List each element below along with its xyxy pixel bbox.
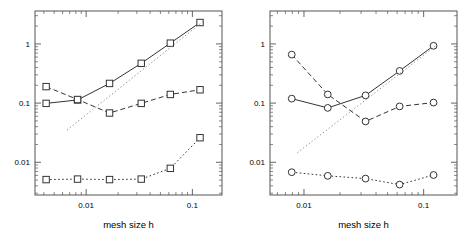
chart-panel-left: 0.010.110.10.01mesh size h [0, 0, 234, 234]
data-point-marker [430, 99, 437, 106]
data-point-marker [74, 176, 80, 182]
data-point-marker [396, 103, 403, 110]
x-axis-title: mesh size h [103, 219, 154, 230]
data-point-marker [362, 118, 369, 125]
data-point-marker [197, 87, 203, 93]
data-point-marker [74, 96, 80, 102]
data-point-marker [396, 68, 403, 75]
data-point-marker [138, 176, 144, 182]
data-series-line [46, 23, 200, 104]
data-point-marker [138, 100, 144, 106]
x-tick-label: 0.01 [296, 201, 312, 210]
data-series-line [46, 138, 200, 180]
data-point-marker [197, 135, 203, 141]
data-series-line [292, 46, 434, 108]
data-point-marker [430, 172, 437, 179]
data-point-marker [106, 80, 112, 86]
data-point-marker [288, 95, 295, 102]
y-tick-label: 1 [26, 40, 31, 49]
data-series-line [292, 55, 434, 122]
data-point-marker [167, 165, 173, 171]
data-point-marker [43, 83, 49, 89]
data-point-marker [324, 91, 331, 98]
data-point-marker [324, 172, 331, 179]
chart-svg: 0.010.110.10.01mesh size h [0, 0, 234, 234]
data-point-marker [106, 176, 112, 182]
data-point-marker [43, 100, 49, 106]
y-tick-label: 0.1 [254, 99, 266, 108]
data-point-marker [167, 40, 173, 46]
data-point-marker [430, 42, 437, 49]
reference-slope-line [67, 21, 204, 130]
plot-frame [270, 11, 457, 195]
data-point-marker [362, 175, 369, 182]
x-axis-title: mesh size h [338, 219, 389, 230]
chart-svg: 0.010.110.10.01mesh size h [234, 0, 468, 234]
chart-panel-right: 0.010.110.10.01mesh size h [234, 0, 468, 234]
data-point-marker [288, 51, 295, 58]
y-tick-label: 0.01 [14, 158, 30, 167]
data-point-marker [288, 169, 295, 176]
y-tick-label: 0.01 [249, 158, 265, 167]
data-point-marker [138, 60, 144, 66]
data-point-marker [362, 92, 369, 99]
data-series-line [46, 87, 200, 113]
plot-frame [35, 11, 222, 195]
y-tick-label: 1 [261, 40, 266, 49]
data-point-marker [396, 181, 403, 188]
x-tick-label: 0.1 [187, 201, 199, 210]
x-tick-label: 0.01 [78, 201, 94, 210]
x-tick-label: 0.1 [418, 201, 430, 210]
y-tick-label: 0.1 [19, 99, 31, 108]
data-point-marker [106, 110, 112, 116]
data-point-marker [167, 91, 173, 97]
data-point-marker [43, 176, 49, 182]
data-point-marker [324, 104, 331, 111]
figure-root: 0.010.110.10.01mesh size h 0.010.110.10.… [0, 0, 469, 234]
